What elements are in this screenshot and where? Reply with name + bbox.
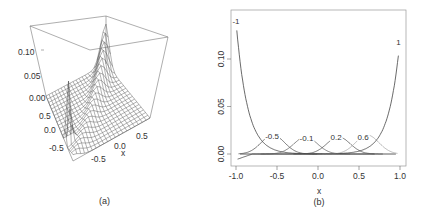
x-tick-label: 0.0 bbox=[312, 171, 324, 181]
curve-labels: -1-0.5-0.10.20.61 bbox=[232, 17, 402, 143]
curve-label: 0.6 bbox=[358, 133, 370, 142]
curve-label: -0.5 bbox=[265, 132, 279, 141]
x-tick-label: -0.5 bbox=[91, 154, 106, 164]
curves bbox=[237, 30, 399, 159]
panel-b-line-plot: 0.000.050.10 -1.0-0.50.00.51.0 -1-0.5-0.… bbox=[216, 10, 406, 207]
mesh-line bbox=[50, 50, 113, 106]
z-tick-label: 0.00 bbox=[29, 93, 46, 103]
x-tick-label: 0.5 bbox=[353, 171, 365, 181]
x-axis: -1.0-0.50.00.51.0 bbox=[229, 166, 407, 181]
x-tick-label: 1.0 bbox=[394, 171, 406, 181]
mesh-line bbox=[97, 49, 138, 125]
box-edge bbox=[30, 26, 46, 96]
curve-label: -1 bbox=[232, 17, 240, 26]
curve-label: -0.1 bbox=[300, 134, 314, 143]
caption-b: (b) bbox=[314, 197, 325, 207]
z-tick-label: 0.05 bbox=[24, 71, 41, 81]
x-tick-label: -1.0 bbox=[229, 171, 244, 181]
box-edge bbox=[30, 26, 90, 50]
mesh-line bbox=[47, 33, 108, 99]
y-tick-label: 0.05 bbox=[216, 98, 226, 115]
z-tick-label: 0.10 bbox=[18, 47, 35, 57]
panel-a-surface-plot: 0.10 0.05 0.00 0.5 0.0 -0.5 -0.5 0.0 0.5… bbox=[18, 16, 168, 206]
y-tick-label: 0.00 bbox=[216, 145, 226, 162]
series-line-1 bbox=[238, 56, 399, 160]
y-tick-label: -0.5 bbox=[49, 143, 64, 153]
box-edge bbox=[106, 16, 168, 37]
plot-frame bbox=[231, 10, 406, 166]
y-tick-label: 0.10 bbox=[216, 50, 226, 67]
y-axis: 0.000.050.10 bbox=[216, 50, 231, 162]
x-tick-label: 0.5 bbox=[136, 131, 148, 141]
panel-a-mesh bbox=[46, 24, 150, 155]
y-tick-label: 0.5 bbox=[39, 111, 51, 121]
x-tick-label: -0.5 bbox=[270, 171, 285, 181]
box-edge bbox=[150, 37, 168, 118]
box-edge bbox=[30, 16, 106, 26]
figure: 0.10 0.05 0.00 0.5 0.0 -0.5 -0.5 0.0 0.5… bbox=[0, 0, 424, 216]
y-tick-label: 0.0 bbox=[44, 125, 56, 135]
x-axis-label: x bbox=[317, 186, 322, 196]
curve-label: 1 bbox=[396, 38, 401, 47]
curve-label: 0.2 bbox=[330, 133, 342, 142]
caption-a: (a) bbox=[99, 196, 110, 206]
mesh-line bbox=[51, 58, 114, 109]
